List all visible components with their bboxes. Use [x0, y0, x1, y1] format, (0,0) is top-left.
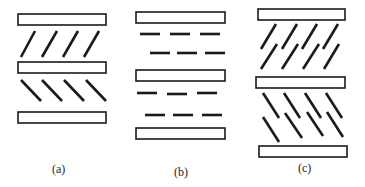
- plate: [136, 70, 225, 81]
- molecule-rod: [42, 80, 62, 101]
- molecule-rod: [282, 24, 297, 49]
- lc-orientation-diagram: [0, 0, 365, 187]
- panel-c: [256, 9, 347, 157]
- plate: [136, 12, 225, 23]
- molecule-rod: [42, 31, 57, 57]
- panel-b-label: (b): [174, 165, 188, 180]
- panel-b: [136, 12, 225, 139]
- molecule-rod: [21, 31, 35, 57]
- plate: [18, 62, 106, 73]
- molecule-rod: [302, 24, 317, 49]
- plate: [136, 128, 225, 139]
- panel-c-label: (c): [298, 161, 311, 176]
- molecule-rod: [324, 44, 339, 69]
- panel-a: [18, 14, 106, 123]
- molecule-rod: [263, 93, 279, 118]
- molecule-rod: [323, 24, 338, 49]
- molecule-rod: [86, 80, 106, 101]
- panel-a-label: (a): [52, 162, 65, 177]
- plate: [18, 14, 106, 25]
- molecule-rod: [63, 31, 78, 57]
- molecule-rod: [64, 80, 84, 101]
- molecule-rod: [84, 31, 99, 57]
- plate: [259, 146, 347, 157]
- molecule-rod: [282, 44, 298, 69]
- plate: [258, 9, 345, 20]
- molecule-rod: [263, 117, 279, 142]
- molecule-rod: [261, 44, 277, 69]
- molecule-rod: [303, 44, 319, 69]
- plate: [18, 112, 106, 123]
- plate: [256, 77, 345, 88]
- molecule-rod: [21, 80, 41, 101]
- molecule-rod: [261, 24, 276, 49]
